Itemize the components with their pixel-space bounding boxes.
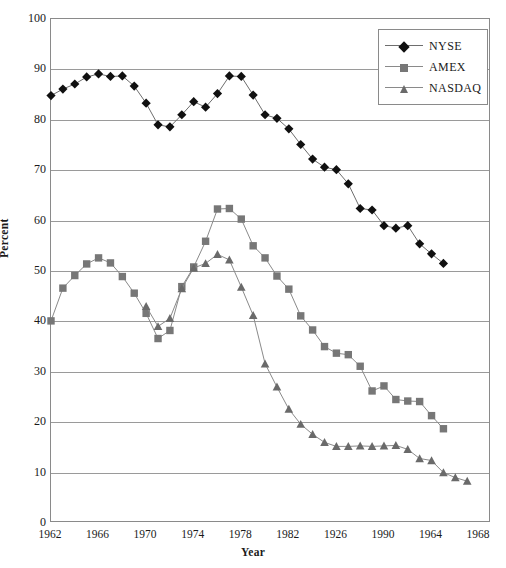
data-point-marker [296,140,305,149]
x-axis-tick-label: 1966 [73,528,123,540]
data-point-marker [285,285,292,292]
data-point-marker [392,441,401,449]
x-axis-tick-label: 1982 [263,528,313,540]
data-point-marker [285,405,294,413]
y-axis-tick-label: 100 [2,12,46,24]
chart-legend: NYSE AMEX NASDAQ [378,29,488,105]
data-point-marker [368,442,377,450]
data-point-marker [463,477,472,485]
data-point-marker [403,445,412,453]
y-axis-tick-label: 40 [2,314,46,326]
data-point-marker [440,425,447,432]
data-point-marker [380,442,389,450]
data-point-marker [273,272,280,279]
data-point-marker [416,398,423,405]
legend-item-nasdaq: NASDAQ [385,77,481,98]
data-point-marker [427,249,436,258]
data-point-marker [106,72,115,81]
amex-marker-icon [385,60,423,74]
gridline [51,170,489,171]
data-point-marker [309,326,316,333]
data-point-marker [190,263,197,270]
legend-label-nasdaq: NASDAQ [423,82,481,94]
data-point-marker [70,79,79,88]
data-point-marker [296,420,305,428]
data-point-marker [367,205,376,214]
data-point-marker [131,289,138,296]
data-point-marker [368,387,375,394]
data-point-marker [260,110,269,119]
data-point-marker [308,430,317,438]
series-nasdaq [142,250,472,485]
x-axis-tick-label: 1978 [215,528,265,540]
data-point-marker [392,396,399,403]
data-point-marker [261,254,268,261]
y-axis-tick-label: 90 [2,62,46,74]
data-point-marker [225,71,234,80]
data-point-marker [427,456,436,464]
data-point-marker [166,327,173,334]
nasdaq-marker-icon [385,81,423,95]
data-point-marker [202,238,209,245]
data-point-marker [94,69,103,78]
data-point-marker [415,239,424,248]
data-point-marker [154,335,161,342]
data-point-marker [320,438,329,446]
data-point-marker [59,284,66,291]
data-point-marker [237,72,246,81]
x-axis-tick-label: 1962 [25,528,75,540]
data-point-marker [178,283,185,290]
legend-label-amex: AMEX [423,61,466,73]
data-point-marker [439,259,448,268]
data-point-marker [153,120,162,129]
data-point-marker [249,91,258,100]
data-point-marker [356,204,365,213]
data-point-marker [225,256,234,264]
data-point-marker [165,122,174,131]
data-point-marker [177,110,186,119]
data-point-marker [379,221,388,230]
legend-item-nyse: NYSE [385,35,481,56]
data-point-marker [284,124,293,133]
gridline [51,422,489,423]
y-axis-tick-label: 50 [2,264,46,276]
data-point-marker [213,250,222,258]
data-point-marker [272,114,281,123]
data-point-marker [333,349,340,356]
data-point-marker [403,221,412,230]
data-point-marker [142,310,149,317]
y-axis-tick-label: 70 [2,163,46,175]
series-line [51,209,443,429]
data-point-marker [345,351,352,358]
x-axis-tick-label: 1974 [168,528,218,540]
x-axis-tick-label: 1968 [453,528,503,540]
y-axis-tick-label: 30 [2,365,46,377]
data-point-marker [273,383,282,391]
data-point-marker [428,412,435,419]
data-point-marker [189,97,198,106]
chart-container: 0102030405060708090100 Percent 196219661… [0,0,506,568]
data-point-marker [119,273,126,280]
x-axis-tick-label: 1990 [358,528,408,540]
data-point-marker [249,242,256,249]
gridline [51,321,489,322]
data-point-marker [356,363,363,370]
data-point-marker [415,454,424,462]
data-point-marker [130,81,139,90]
data-point-marker [226,205,233,212]
data-point-marker [214,205,221,212]
data-point-marker [83,260,90,267]
data-point-marker [107,259,114,266]
y-axis-tick-label: 20 [2,415,46,427]
data-point-marker [451,473,460,481]
data-point-marker [82,72,91,81]
legend-label-nyse: NYSE [423,40,462,52]
y-axis-tick-label: 80 [2,113,46,125]
data-point-marker [178,284,187,292]
gridline [51,271,489,272]
data-point-marker [118,71,127,80]
data-point-marker [154,322,163,330]
x-axis-tick-label: 1964 [406,528,456,540]
series-amex [47,205,447,433]
data-point-marker [380,382,387,389]
